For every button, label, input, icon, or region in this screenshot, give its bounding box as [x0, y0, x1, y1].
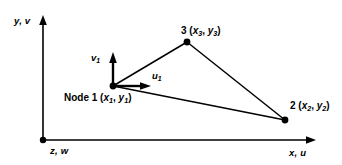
node-3-number: 3: [181, 25, 187, 36]
displacement-vector-v1-arrowhead: [109, 52, 117, 63]
element-edge-1-3: [113, 42, 187, 86]
origin-dot: [40, 137, 46, 143]
node-3-y-sub: 3: [213, 29, 217, 38]
vector-v1-subscript: 1: [96, 57, 100, 64]
x-axis-label: x, u: [289, 148, 306, 158]
node-3-x-sub: 3: [198, 29, 202, 38]
node-3-label: 3 (x3, y3): [181, 26, 221, 36]
node-1-number: Node 1: [64, 92, 97, 103]
figure-container: y, v x, u z, w v1 u1 Node 1 (x1, y1) 2 (…: [0, 0, 342, 165]
vector-u1-subscript: 1: [158, 75, 162, 82]
y-axis-label: y, v: [14, 16, 30, 26]
vector-v1-label: v1: [91, 53, 100, 63]
z-axis-label: z, w: [50, 146, 68, 156]
node-1-coords: (x1, y1): [97, 92, 131, 103]
diagram-canvas: [0, 0, 342, 165]
element-edge-2-1: [113, 86, 285, 120]
node-2-number: 2: [290, 100, 296, 111]
node-1-y-sub: 1: [124, 96, 128, 105]
node-3-coords: (x3, y3): [187, 25, 221, 36]
node-1-label: Node 1 (x1, y1): [64, 93, 131, 103]
displacement-vector-u1-arrowhead: [140, 82, 151, 90]
vector-u1-label: u1: [152, 71, 162, 81]
node-1-x-sub: 1: [109, 96, 113, 105]
node-2-label: 2 (x2, y2): [290, 101, 330, 111]
node-2-coords: (x2, y2): [296, 100, 330, 111]
x-axis-arrowhead: [306, 136, 316, 144]
node-1-dot: [110, 83, 117, 90]
element-edge-3-2: [187, 42, 285, 120]
y-axis-arrowhead: [39, 15, 47, 25]
vector-u1-symbol: u: [152, 70, 158, 81]
node-2-y-sub: 2: [322, 104, 326, 113]
node-2-x-sub: 2: [307, 104, 311, 113]
node-3-dot: [184, 39, 191, 46]
node-2-dot: [282, 117, 289, 124]
